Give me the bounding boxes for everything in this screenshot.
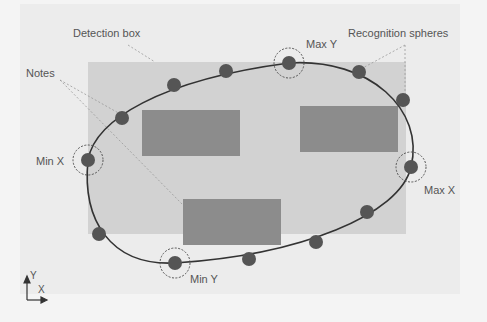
note-1 bbox=[142, 110, 240, 156]
note-2 bbox=[300, 106, 398, 152]
axis-label-y: Y bbox=[30, 270, 37, 281]
label-min-y: Min Y bbox=[190, 273, 218, 285]
label-max-x: Max X bbox=[424, 184, 455, 196]
label-detection-box: Detection box bbox=[73, 27, 140, 39]
axis-label-x: X bbox=[38, 284, 45, 295]
label-recognition-spheres: Recognition spheres bbox=[348, 27, 448, 39]
label-max-y: Max Y bbox=[306, 38, 337, 50]
label-min-x: Min X bbox=[36, 155, 64, 167]
label-notes: Notes bbox=[26, 67, 55, 79]
diagram-canvas: Detection box Notes Recognition spheres … bbox=[0, 0, 487, 322]
note-3 bbox=[183, 199, 281, 245]
diagram-graphic bbox=[0, 0, 487, 322]
